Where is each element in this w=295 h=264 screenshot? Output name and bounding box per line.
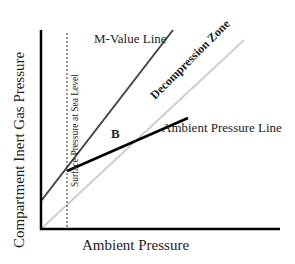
diagram-svg: Compartment Inert Gas Pressure Surface P… (0, 0, 295, 264)
decompression-diagram: Compartment Inert Gas Pressure Surface P… (0, 0, 295, 264)
ambient-pressure-line-label: Ambient Pressure Line (162, 120, 282, 135)
x-axis-label: Ambient Pressure (82, 237, 189, 253)
b-label: B (111, 126, 120, 141)
m-value-line (41, 30, 173, 201)
surface-pressure-label: Surface Pressure at Sea Level (70, 74, 80, 187)
y-axis-label: Compartment Inert Gas Pressure (11, 51, 27, 248)
m-value-label: M-Value Line (94, 31, 167, 46)
